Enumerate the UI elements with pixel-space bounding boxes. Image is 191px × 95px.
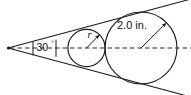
large-radius-label: 2.0 in. <box>117 19 147 31</box>
angle-degree-symbol: ° <box>51 40 54 47</box>
geometry-figure-container: 30 ° r 2.0 in. <box>0 0 191 95</box>
apex-vertex-dot <box>7 46 10 49</box>
geometry-figure-svg: 30 ° r 2.0 in. <box>0 0 191 95</box>
angle-label: 30 <box>37 41 49 53</box>
